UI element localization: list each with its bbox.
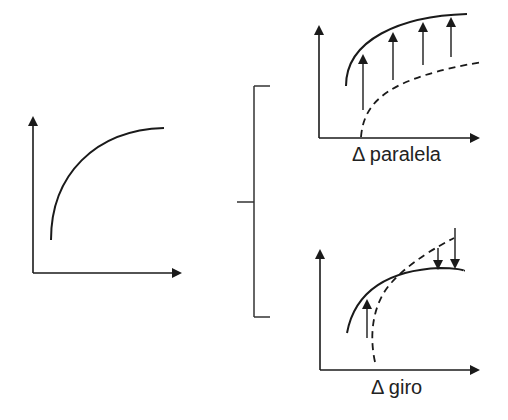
base-graph [33, 118, 180, 273]
parallel-shift-graph [319, 14, 482, 138]
parallel-shift-label: Δ paralela [352, 143, 441, 166]
diagram-canvas [0, 0, 508, 420]
rotation-solid-curve [347, 268, 464, 333]
base-curve [51, 128, 164, 240]
parallel-solid-curve [346, 14, 467, 86]
rotation-dashed-curve [372, 238, 454, 362]
parallel-dashed-curve [361, 62, 482, 137]
rotation-graph [320, 228, 478, 370]
rotation-label: Δ giro [371, 376, 422, 399]
bracket [237, 86, 270, 317]
